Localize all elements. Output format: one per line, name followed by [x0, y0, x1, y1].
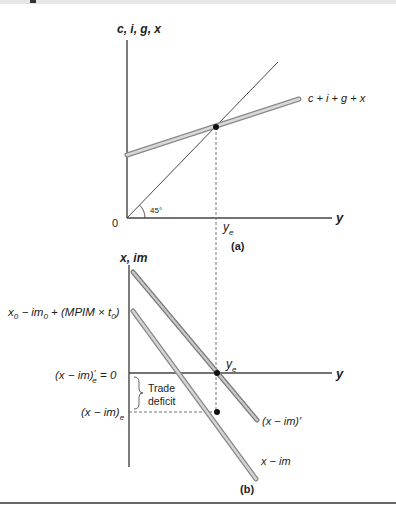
bottom-rule [0, 502, 396, 504]
panel-b-caption: (b) [240, 483, 254, 495]
panel-b-y-axis-label: x, im [119, 251, 148, 265]
shifted-net-exports-label: (x − im)′ [262, 415, 302, 427]
trade-deficit-label-line2: deficit [148, 395, 176, 407]
diagram-canvas: c, i, g, x y 0 45° c + i + g + x ye (a) … [0, 0, 396, 508]
panel-b: x, im y x0 − im0 + (MPIM × t0) (x − im)′… [7, 251, 344, 495]
origin-label: 0 [112, 217, 118, 229]
panel-a-y-axis-label: c, i, g, x [117, 22, 162, 36]
panel-a-caption: (a) [231, 240, 245, 252]
forty-five-degree-line [127, 62, 278, 218]
angle-label: 45° [150, 206, 162, 215]
panel-b-x-axis-label: y [335, 366, 344, 381]
intercept-label: x0 − im0 + (MPIM × t0) [7, 306, 120, 321]
equilibrium-point-b-deficit [214, 409, 220, 415]
aggregate-demand-label: c + i + g + x [308, 92, 366, 104]
panel-a-x-axis-label: y [335, 210, 344, 225]
deficit-level-label: (x − im)e [81, 406, 125, 422]
zero-net-exports-label: (x − im)′e = 0 [55, 368, 117, 385]
net-exports-label: x − im [260, 455, 291, 467]
panel-a: c, i, g, x y 0 45° c + i + g + x ye (a) [112, 22, 366, 412]
panel-b-ye-label: ye [225, 357, 237, 374]
equilibrium-point-a [213, 124, 219, 130]
trade-deficit-label-line1: Trade [148, 382, 175, 394]
panel-a-ye-label: ye [222, 220, 234, 237]
angle-arc-icon [140, 205, 146, 218]
trade-deficit-brace-icon [134, 377, 143, 409]
equilibrium-point-b-zero [214, 370, 220, 376]
